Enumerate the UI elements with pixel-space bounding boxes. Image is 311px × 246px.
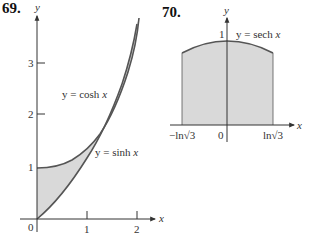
y-axis-label-70: y (223, 4, 229, 16)
x-tick-label-1: 1 (84, 223, 90, 235)
figure-69: 69. y x 0 1 2 1 2 3 y = cosh x y = sinh … (2, 0, 164, 235)
figure-69-number: 69. (2, 0, 21, 16)
left-bound-label: −ln√3 (169, 129, 196, 141)
x-axis-label-69: x (158, 212, 164, 224)
y-tick-label-70: 1 (219, 28, 225, 40)
y-tick-label-3: 3 (28, 57, 34, 69)
origin-label-69: 0 (28, 221, 34, 233)
x-axis-label-70: x (296, 119, 302, 131)
x-tick-label-2: 2 (134, 223, 140, 235)
figure-canvas: 69. y x 0 1 2 1 2 3 y = cosh x y = sinh … (0, 0, 311, 246)
y-tick-label-2: 2 (28, 108, 34, 120)
shaded-region-69 (37, 18, 139, 219)
figure-70-number: 70. (162, 4, 181, 20)
y-tick-label-1: 1 (28, 161, 34, 173)
y-axis-label-69: y (34, 1, 40, 13)
figure-70: 70. y x 1 y = sech x 0 −ln√3 ln√3 (162, 4, 302, 142)
sinh-label: y = sinh x (95, 146, 138, 158)
origin-label-70: 0 (218, 129, 224, 141)
sech-label: y = sech x (236, 28, 281, 40)
cosh-label: y = cosh x (62, 88, 107, 100)
right-bound-label: ln√3 (263, 129, 284, 141)
